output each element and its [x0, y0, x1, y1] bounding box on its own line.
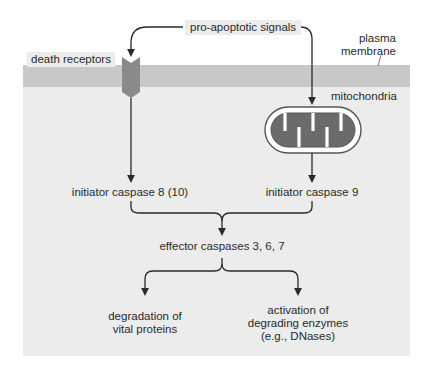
- initiator-caspase-8-label: initiator caspase 8 (10): [72, 186, 188, 199]
- initiator-caspase-9-label: initiator caspase 9: [266, 186, 359, 199]
- outcome-right-line-3: (e.g., DNases): [248, 330, 348, 343]
- plasma-membrane-line-1: plasma: [340, 32, 396, 45]
- plasma-membrane-label: plasma membrane: [340, 32, 396, 58]
- mitochondrion-icon: [265, 107, 361, 153]
- death-receptor-icon: [122, 57, 140, 98]
- signals-label: pro-apoptotic signals: [185, 20, 301, 35]
- death-receptors-label: death receptors: [27, 52, 115, 67]
- effector-caspases-label: effector caspases 3, 6, 7: [159, 240, 284, 253]
- mitochondria-label: mitochondria: [331, 90, 397, 103]
- outcome-degradation-label: degradation of vital proteins: [108, 310, 182, 336]
- outcome-right-line-1: activation of: [248, 304, 348, 317]
- plasma-membrane-line-2: membrane: [340, 45, 396, 58]
- outcome-left-line-2: vital proteins: [108, 323, 182, 336]
- outcome-left-line-1: degradation of: [108, 310, 182, 323]
- outcome-right-line-2: degrading enzymes: [248, 317, 348, 330]
- outcome-activation-label: activation of degrading enzymes (e.g., D…: [248, 304, 348, 343]
